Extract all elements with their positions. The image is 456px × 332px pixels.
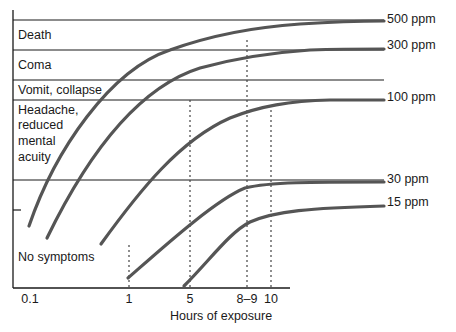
- curve-30ppm: [128, 182, 384, 278]
- band-label-headache-4: acuity: [18, 150, 51, 165]
- band-label-coma: Coma: [18, 58, 51, 73]
- band-label-headache-2: reduced: [18, 118, 63, 133]
- series-label-100ppm: 100 ppm: [387, 90, 436, 105]
- co-exposure-chart: Death Coma Vomit, collapse Headache, red…: [0, 0, 456, 332]
- band-label-death: Death: [18, 28, 51, 43]
- series-label-500ppm: 500 ppm: [387, 12, 436, 27]
- band-label-headache-3: mental: [18, 134, 56, 149]
- band-label-no-symptoms: No symptoms: [18, 250, 94, 265]
- band-label-vomit: Vomit, collapse: [18, 83, 102, 98]
- x-axis-title: Hours of exposure: [170, 309, 272, 324]
- band-label-headache-1: Headache,: [18, 103, 78, 118]
- series-label-300ppm: 300 ppm: [387, 38, 436, 53]
- x-tick-5: 5: [170, 292, 210, 307]
- x-tick-1: 1: [109, 292, 149, 307]
- curve-15ppm: [184, 206, 384, 286]
- series-label-15ppm: 15 ppm: [387, 195, 429, 210]
- curve-300ppm: [47, 49, 384, 238]
- x-tick-0-1: 0.1: [10, 292, 50, 307]
- curve-100ppm: [101, 100, 384, 244]
- curve-500ppm: [29, 21, 384, 226]
- series-label-30ppm: 30 ppm: [387, 172, 429, 187]
- x-tick-10: 10: [251, 292, 291, 307]
